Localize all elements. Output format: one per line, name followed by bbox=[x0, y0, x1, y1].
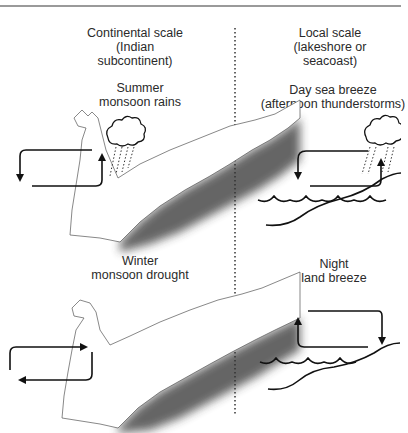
night-circulation-arrow bbox=[298, 311, 382, 347]
winter-landmass bbox=[62, 272, 300, 433]
summer-landmass bbox=[70, 100, 300, 252]
day-circulation-arrow bbox=[298, 151, 381, 186]
day-shoreline bbox=[258, 173, 401, 225]
summer-cloud-icon bbox=[107, 116, 146, 146]
day-cloud-icon bbox=[365, 115, 401, 145]
